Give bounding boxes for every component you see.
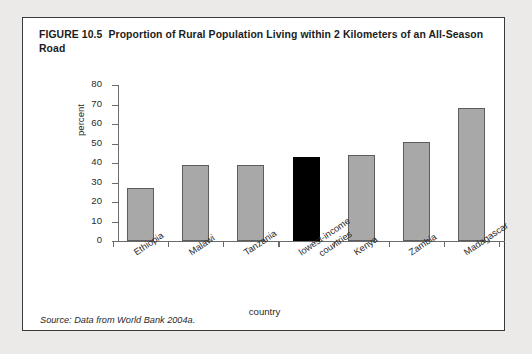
y-axis-tick: 10: [112, 222, 118, 223]
y-axis-label: percent: [75, 104, 86, 136]
y-axis-tick-label: 10: [91, 215, 102, 226]
x-axis-tick: [499, 241, 500, 247]
y-axis-line: [118, 85, 119, 241]
figure-title: FIGURE 10.5Proportion of Rural Populatio…: [39, 28, 491, 55]
x-axis-tick: [168, 241, 169, 247]
y-axis-tick: 30: [112, 183, 118, 184]
y-axis-tick-label: 60: [91, 117, 102, 128]
bar-zambia: [403, 142, 430, 241]
y-axis-tick: 70: [112, 105, 118, 106]
bar-ethiopia: [127, 188, 154, 241]
y-axis-tick-label: 40: [91, 156, 102, 167]
figure-number: FIGURE 10.5: [39, 29, 102, 40]
x-axis-tick: [113, 241, 114, 247]
x-axis-tick: [223, 241, 224, 247]
x-axis-tick: [389, 241, 390, 247]
y-axis-tick-label: 30: [91, 176, 102, 187]
bar-tanzania: [237, 165, 264, 241]
chart-plot-area: 01020304050607080 EthiopiaMalawiTanzania…: [119, 85, 505, 241]
y-axis-tick: 40: [112, 163, 118, 164]
bar-madagascar: [458, 108, 485, 241]
chart-canvas: 01020304050607080 EthiopiaMalawiTanzania…: [119, 85, 505, 241]
bar-lowest-income-countries: [293, 157, 320, 241]
y-axis-tick-label: 70: [91, 98, 102, 109]
y-axis-tick-label: 50: [91, 137, 102, 148]
figure-frame: FIGURE 10.5Proportion of Rural Populatio…: [22, 17, 505, 331]
x-axis-tick: [278, 241, 279, 247]
figure-title-text: Proportion of Rural Population Living wi…: [39, 29, 483, 54]
source-note: Source: Data from World Bank 2004a.: [40, 315, 195, 325]
y-axis-tick: 20: [112, 202, 118, 203]
y-axis-tick: 80: [112, 85, 118, 86]
y-axis-tick-label: 80: [91, 78, 102, 89]
x-axis-tick: [444, 241, 445, 247]
y-axis-tick: 50: [112, 144, 118, 145]
y-axis-tick-label: 20: [91, 195, 102, 206]
bar-malawi: [182, 165, 209, 241]
y-axis-tick: 60: [112, 124, 118, 125]
y-axis-tick-label: 0: [97, 234, 102, 245]
